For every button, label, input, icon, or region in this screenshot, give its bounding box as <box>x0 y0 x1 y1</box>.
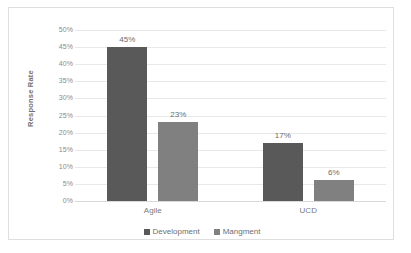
bar-value-label: 23% <box>158 110 198 119</box>
y-axis-tick-label: 0% <box>33 197 73 205</box>
legend-label: Mangment <box>223 227 261 236</box>
chart-container: 50%45%40%35%30%25%20%15%10%5%0% Response… <box>8 7 394 240</box>
chart-legend: DevelopmentMangment <box>9 227 395 236</box>
legend-label: Development <box>153 227 200 236</box>
legend-swatch-icon <box>144 229 150 235</box>
y-axis-tick-label: 35% <box>33 77 73 85</box>
y-axis-tick-label: 30% <box>33 94 73 102</box>
legend-item[interactable]: Mangment <box>214 227 261 236</box>
y-axis-tick-label: 15% <box>33 146 73 154</box>
bar[interactable] <box>314 180 354 201</box>
y-axis-tick-label: 25% <box>33 112 73 120</box>
plot-area: 45%23%17%6% <box>75 30 386 201</box>
bar[interactable] <box>263 143 303 201</box>
x-axis-tick-labels: AgileUCD <box>75 206 386 220</box>
bar-value-label: 45% <box>107 35 147 44</box>
bar-value-label: 17% <box>263 131 303 140</box>
y-axis-title: Response Rate <box>26 54 35 144</box>
gridline <box>75 30 386 31</box>
legend-swatch-icon <box>214 229 220 235</box>
y-axis-tick-labels: 50%45%40%35%30%25%20%15%10%5%0% <box>29 30 73 201</box>
y-axis-tick-label: 5% <box>33 180 73 188</box>
y-axis-tick-label: 40% <box>33 60 73 68</box>
gridline <box>75 201 386 202</box>
y-axis-tick-label: 45% <box>33 43 73 51</box>
bar-value-label: 6% <box>314 168 354 177</box>
x-axis-tick-label: UCD <box>268 206 348 215</box>
y-axis-tick-label: 20% <box>33 129 73 137</box>
x-axis-tick-label: Agile <box>113 206 193 215</box>
y-axis-tick-label: 50% <box>33 26 73 34</box>
bar[interactable] <box>107 47 147 201</box>
legend-item[interactable]: Development <box>144 227 200 236</box>
y-axis-tick-label: 10% <box>33 163 73 171</box>
bar[interactable] <box>158 122 198 201</box>
